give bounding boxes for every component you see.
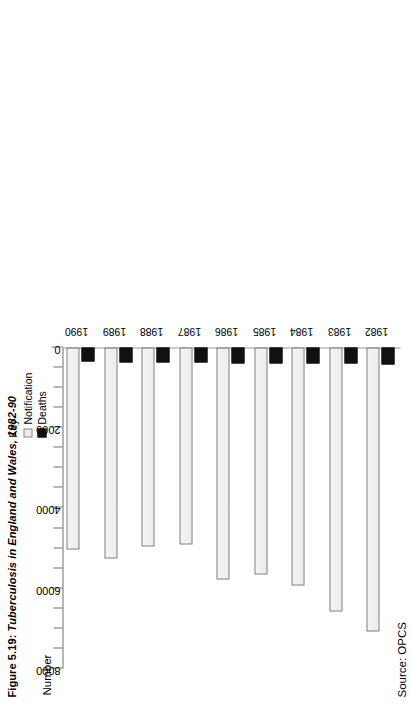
legend-swatch-notification-icon bbox=[23, 428, 32, 437]
bar-deaths-1986 bbox=[231, 347, 244, 363]
bar-notification-1990 bbox=[66, 347, 79, 549]
bar-group-1985: 1985 bbox=[250, 347, 288, 668]
category-label-1988: 1988 bbox=[137, 325, 165, 337]
bar-deaths-1988 bbox=[156, 347, 169, 362]
axis-tick-minor bbox=[53, 406, 62, 407]
bar-notification-1982 bbox=[366, 347, 379, 631]
bar-group-1989: 1989 bbox=[100, 347, 138, 668]
rotated-figure-canvas: Figure 5.19: Tuberculosis in England and… bbox=[0, 0, 411, 705]
category-label-1987: 1987 bbox=[175, 325, 203, 337]
axis-tick-label: 8000 bbox=[36, 664, 60, 676]
category-label-1986: 1986 bbox=[212, 325, 240, 337]
axis-tick-minor bbox=[53, 607, 62, 608]
bar-deaths-1989 bbox=[119, 347, 132, 362]
figure-page: Figure 5.19: Tuberculosis in England and… bbox=[0, 0, 411, 705]
axis-tick-label: 6000 bbox=[36, 584, 60, 596]
legend-label-deaths: Deaths bbox=[35, 391, 48, 424]
bar-notification-1986 bbox=[216, 347, 229, 579]
bar-notification-1989 bbox=[104, 347, 117, 558]
axis-tick-minor bbox=[53, 446, 62, 447]
axis-tick-label: 2000 bbox=[36, 423, 60, 435]
bar-notification-1985 bbox=[254, 347, 267, 574]
axis-tick-minor bbox=[53, 627, 62, 628]
plot-area: 02000400060008000 1982198319841985198619… bbox=[62, 347, 400, 668]
category-label-1989: 1989 bbox=[100, 325, 128, 337]
bar-group-1988: 1988 bbox=[137, 347, 175, 668]
axis-tick-label: 4000 bbox=[36, 504, 60, 516]
bar-deaths-1982 bbox=[381, 347, 394, 364]
bar-notification-1984 bbox=[291, 347, 304, 585]
legend-item-notification: Notification bbox=[21, 372, 34, 437]
legend-title: Key bbox=[6, 372, 19, 437]
axis-tick-minor bbox=[53, 547, 62, 548]
bar-group-1987: 1987 bbox=[175, 347, 213, 668]
bar-deaths-1987 bbox=[194, 347, 207, 362]
axis-tick-minor bbox=[53, 386, 62, 387]
figure-number: Figure 5.19: bbox=[5, 634, 17, 697]
bar-group-1986: 1986 bbox=[212, 347, 250, 668]
category-label-1990: 1990 bbox=[62, 325, 90, 337]
bar-deaths-1990 bbox=[81, 347, 94, 361]
axis-tick-minor bbox=[53, 466, 62, 467]
legend-label-notification: Notification bbox=[21, 372, 34, 424]
axis-tick-minor bbox=[53, 527, 62, 528]
category-label-1984: 1984 bbox=[287, 325, 315, 337]
bar-group-1982: 1982 bbox=[362, 347, 400, 668]
category-label-1982: 1982 bbox=[362, 325, 390, 337]
bar-group-1984: 1984 bbox=[287, 347, 325, 668]
axis-tick-minor bbox=[53, 647, 62, 648]
bar-deaths-1985 bbox=[269, 347, 282, 363]
axis-tick-label: 0 bbox=[54, 343, 60, 355]
axis-tick-minor bbox=[53, 567, 62, 568]
axis-tick-minor bbox=[53, 486, 62, 487]
bar-notification-1983 bbox=[329, 347, 342, 611]
bar-group-1990: 1990 bbox=[62, 347, 100, 668]
bar-notification-1988 bbox=[141, 347, 154, 546]
source-note: Source: OPCS bbox=[395, 622, 407, 697]
category-label-1985: 1985 bbox=[250, 325, 278, 337]
bar-group-1983: 1983 bbox=[325, 347, 363, 668]
bar-deaths-1984 bbox=[306, 347, 319, 363]
axis-tick-minor bbox=[53, 366, 62, 367]
bar-notification-1987 bbox=[179, 347, 192, 544]
category-label-1983: 1983 bbox=[325, 325, 353, 337]
figure-caption: Figure 5.19: Tuberculosis in England and… bbox=[5, 395, 17, 697]
bar-deaths-1983 bbox=[344, 347, 357, 363]
